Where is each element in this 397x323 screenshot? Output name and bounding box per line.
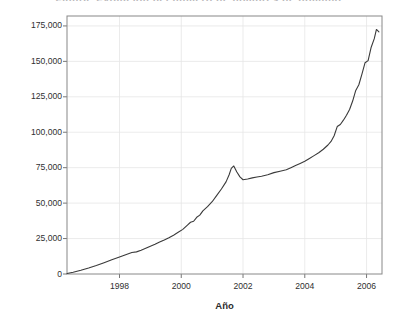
plot-frame	[67, 16, 382, 274]
axis-ticks	[63, 26, 367, 278]
chart-figure: Figura. Evolucion del numero de nombres …	[0, 0, 397, 323]
plot-area	[0, 0, 397, 323]
gridlines	[67, 16, 382, 274]
data-line-series-0	[67, 29, 379, 273]
